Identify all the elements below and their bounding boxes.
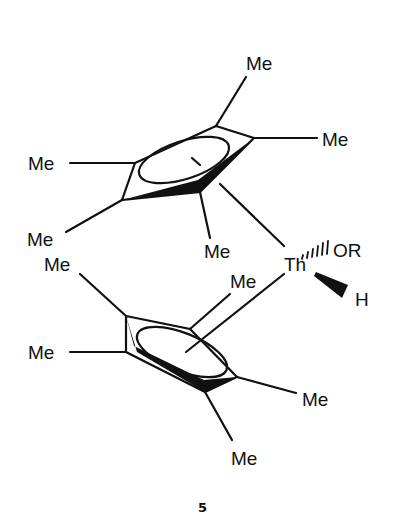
alkoxide-label: OR — [333, 240, 362, 261]
upper-cp-ring — [66, 77, 317, 246]
methyl-label: Me — [246, 53, 272, 74]
methyl-label: Me — [302, 389, 328, 410]
compound-number: 5 — [198, 500, 207, 515]
methyl-label: Me — [230, 271, 256, 292]
methyl-label: Me — [28, 342, 54, 363]
methyl-label: Me — [28, 153, 54, 174]
metal-label: Th — [284, 254, 306, 275]
hydride-label: H — [355, 289, 369, 310]
solid-wedge-bond — [314, 272, 348, 298]
lower-cp-ring — [70, 274, 296, 440]
methyl-label: Me — [322, 129, 348, 150]
methyl-label: Me — [204, 241, 230, 262]
methyl-label: Me — [44, 254, 70, 275]
methyl-label: Me — [231, 448, 257, 469]
organometallic-structure: Me Me Me Me Me Th OR H Me Me Me Me Me 5 — [0, 0, 408, 517]
methyl-label: Me — [27, 229, 53, 250]
